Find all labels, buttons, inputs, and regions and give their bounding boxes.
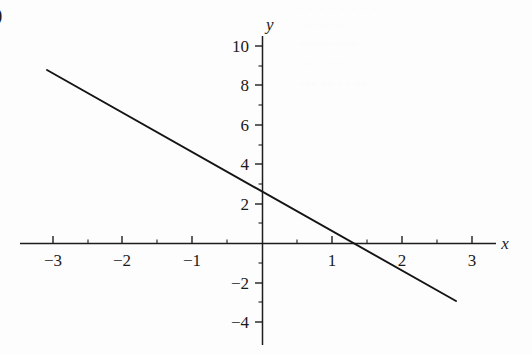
y-tick-label-8: 8 [241,76,250,95]
y-tick-label--2: −2 [231,274,249,293]
x-tick-label-2: 2 [398,251,407,270]
y-axis-label: y [264,15,274,34]
data-series-line [47,70,456,301]
cartesian-plot: −3 −2 −1 1 2 3 10 8 6 4 2 −2 −4 y x [0,0,532,355]
y-tick-label-6: 6 [241,116,250,135]
x-tick-label--2: −2 [113,251,131,270]
y-tick-label--4: −4 [231,313,250,332]
y-tick-label-2: 2 [241,195,250,214]
x-tick-label-1: 1 [328,251,337,270]
x-tick-label--1: −1 [183,251,201,270]
x-tick-label-3: 3 [468,251,477,270]
x-tick-label--3: −3 [44,251,62,270]
y-tick-label-4: 4 [241,155,250,174]
y-tick-label-10: 10 [232,37,249,56]
figure-canvas: ▫ ▫ ▫ ▫ ▫ ▫ ▫ ▫ ▫▫▫ ▫▫ ▫▫▫ ▫▫▫▫▫▫ ▫▫▫▫▫ … [0,0,532,355]
x-axis-label: x [500,234,509,253]
